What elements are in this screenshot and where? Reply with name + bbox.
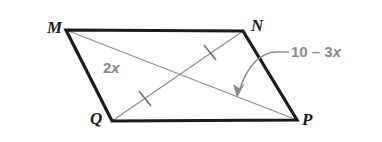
vertex-label-p: P: [302, 111, 312, 128]
tick-mark-qn-lower: [139, 91, 151, 106]
side-measure-variable: x: [333, 43, 341, 60]
geometry-figure: M N P Q 2x 10 – 3x: [0, 0, 382, 142]
diagonal-mp: [66, 30, 297, 120]
diagonal-qn: [112, 31, 243, 121]
vertex-label-n: N: [251, 17, 263, 34]
side-measure-prefix: 10 – 3: [291, 43, 333, 60]
vertex-label-q: Q: [90, 110, 102, 127]
diagonal-measure-label: 2x: [103, 60, 120, 75]
tick-mark-qn: [204, 45, 216, 60]
side-measure-label: 10 – 3x: [291, 44, 341, 59]
diagonal-measure-variable: x: [111, 59, 119, 76]
vertex-label-m: M: [47, 19, 62, 36]
